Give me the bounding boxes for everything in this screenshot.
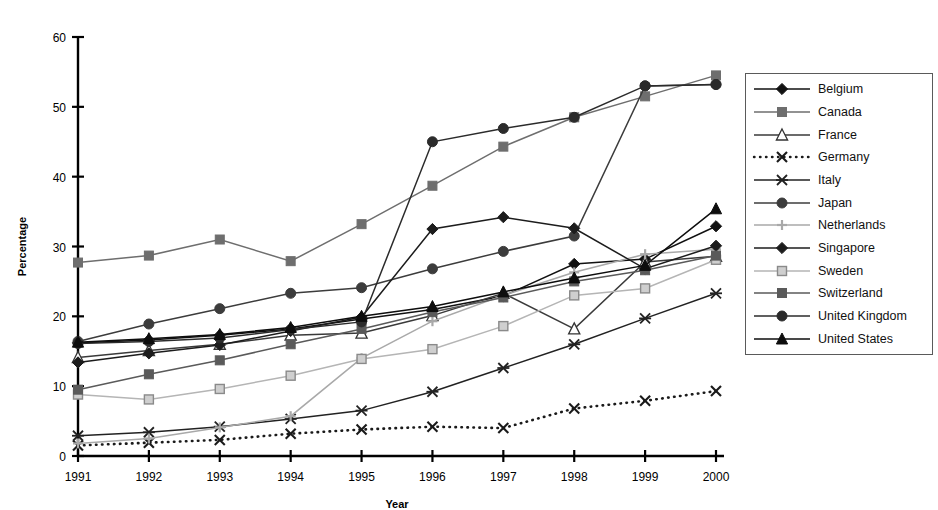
legend-item-belgium[interactable]: Belgium (746, 78, 932, 101)
legend-item-united-kingdom[interactable]: United Kingdom (746, 305, 932, 328)
marker-x (427, 422, 437, 432)
x-tick-label: 1993 (206, 470, 233, 484)
y-tick-label: 30 (53, 241, 67, 255)
y-tick-label: 20 (53, 310, 67, 324)
series-line (78, 256, 716, 357)
legend-item-italy[interactable]: Italy (746, 169, 932, 192)
legend-item-label: France (812, 128, 857, 142)
marker-asterisk (497, 363, 509, 373)
marker-diamond (776, 84, 787, 95)
marker-diamond (498, 212, 509, 223)
series-united-kingdom (73, 79, 721, 348)
marker-square (712, 251, 721, 260)
marker-plus (777, 220, 787, 230)
marker-square (499, 142, 508, 151)
y-tick-label: 10 (53, 380, 67, 394)
legend-marker-icon (752, 306, 812, 326)
marker-x (640, 396, 650, 406)
line-chart: 0102030405060199119921993199419951996199… (0, 0, 740, 510)
marker-circle (777, 311, 787, 321)
marker-circle (427, 264, 437, 274)
legend-item-label: Switzerland (812, 286, 883, 300)
x-tick-label: 1997 (490, 470, 517, 484)
legend-item-sweden[interactable]: Sweden (746, 259, 932, 282)
y-tick-label: 60 (53, 31, 67, 45)
marker-square (286, 257, 295, 266)
legend-item-switzerland[interactable]: Switzerland (746, 282, 932, 305)
legend-marker-icon (752, 79, 812, 99)
x-tick-label: 1991 (65, 470, 92, 484)
marker-circle (569, 112, 579, 122)
legend-item-singapore[interactable]: Singapore (746, 237, 932, 260)
y-axis-title: Percentage (16, 217, 28, 276)
marker-square-open (357, 354, 366, 363)
legend-marker-icon (752, 238, 812, 258)
legend-item-label: Netherlands (812, 218, 885, 232)
legend-item-japan[interactable]: Japan (746, 191, 932, 214)
legend-item-label: Italy (812, 173, 841, 187)
legend-item-canada[interactable]: Canada (746, 101, 932, 124)
marker-circle (498, 246, 508, 256)
x-tick-label: 1999 (632, 470, 659, 484)
series-canada (74, 71, 721, 267)
series-line (78, 260, 716, 400)
marker-square (215, 235, 224, 244)
marker-square-open (286, 371, 295, 380)
x-tick-label: 1998 (561, 470, 588, 484)
legend-item-germany[interactable]: Germany (746, 146, 932, 169)
marker-circle (711, 79, 721, 89)
marker-circle (777, 198, 787, 208)
marker-square (778, 108, 787, 117)
series-line (78, 209, 716, 342)
x-axis-title: Year (385, 498, 409, 510)
legend-marker-icon (752, 261, 812, 281)
marker-square-open (641, 284, 650, 293)
marker-square-open (144, 395, 153, 404)
marker-asterisk (776, 175, 788, 185)
legend-marker-icon (752, 193, 812, 213)
marker-square-open (778, 266, 787, 275)
marker-diamond (143, 348, 154, 359)
series-line (78, 391, 716, 445)
marker-square (778, 289, 787, 298)
marker-square-open (428, 345, 437, 354)
marker-circle (640, 81, 650, 91)
marker-circle (427, 137, 437, 147)
series-japan (73, 79, 721, 346)
marker-triangle (710, 203, 721, 214)
marker-square (286, 340, 295, 349)
chart-canvas: 0102030405060199119921993199419951996199… (0, 0, 740, 510)
series-line (78, 85, 716, 344)
chart-legend: BelgiumCanadaFranceGermanyItalyJapanNeth… (745, 73, 933, 355)
series-netherlands (73, 244, 721, 448)
legend-item-france[interactable]: France (746, 123, 932, 146)
legend-marker-icon (752, 283, 812, 303)
marker-asterisk (426, 387, 438, 397)
legend-item-netherlands[interactable]: Netherlands (746, 214, 932, 237)
legend-item-label: United States (812, 332, 893, 346)
legend-item-label: Singapore (812, 241, 875, 255)
marker-square (215, 356, 224, 365)
chart-page: 0102030405060199119921993199419951996199… (0, 0, 938, 510)
marker-square (428, 181, 437, 190)
marker-asterisk (639, 313, 651, 323)
x-tick-label: 2000 (703, 470, 730, 484)
marker-asterisk (568, 339, 580, 349)
marker-asterisk (356, 406, 368, 416)
marker-circle (498, 123, 508, 133)
x-tick-label: 1996 (419, 470, 446, 484)
y-tick-label: 50 (53, 101, 67, 115)
legend-item-united-states[interactable]: United States (746, 327, 932, 350)
marker-square (144, 251, 153, 260)
legend-marker-icon (752, 147, 812, 167)
legend-item-label: Belgium (812, 82, 863, 96)
legend-marker-icon (752, 102, 812, 122)
y-tick-label: 40 (53, 171, 67, 185)
series-belgium (72, 221, 721, 349)
y-tick-label: 0 (59, 450, 66, 464)
marker-circle (286, 288, 296, 298)
legend-marker-icon (752, 125, 812, 145)
marker-square-open (570, 291, 579, 300)
marker-circle (215, 304, 225, 314)
series-layer (72, 71, 722, 451)
